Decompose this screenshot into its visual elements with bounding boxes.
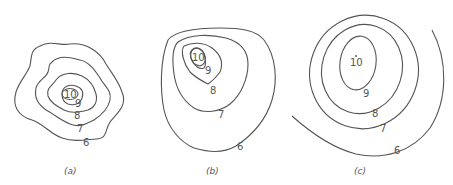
- label-7: 7: [77, 123, 83, 134]
- label-9: 9: [363, 88, 369, 99]
- caption-a: (a): [64, 166, 77, 176]
- label-8: 8: [372, 108, 378, 119]
- label-6: 6: [394, 145, 400, 156]
- caption-b: (b): [206, 166, 219, 176]
- label-10: 10: [192, 52, 205, 63]
- panel-c: 10 9 8 7 6 (c): [292, 0, 444, 176]
- panel-a: 10 9 8 7 6 (a): [15, 43, 124, 176]
- contour-figure: 10 9 8 7 6 (a) 10 9 8 7 6 (b) 10 9 8 7 6…: [0, 0, 453, 185]
- contour-diagram: 10 9 8 7 6 (a) 10 9 8 7 6 (b) 10 9 8 7 6…: [0, 0, 453, 185]
- contour-8: [310, 14, 414, 124]
- label-7: 7: [218, 109, 224, 120]
- label-8: 8: [74, 110, 80, 121]
- label-9: 9: [75, 98, 81, 109]
- label-8: 8: [210, 85, 216, 96]
- label-7: 7: [380, 123, 386, 134]
- caption-c: (c): [354, 166, 366, 176]
- label-6: 6: [83, 137, 89, 148]
- label-6: 6: [237, 141, 243, 152]
- label-10: 10: [350, 57, 363, 68]
- contour-7: [294, 0, 434, 144]
- label-9: 9: [205, 65, 211, 76]
- contour-8: [182, 43, 221, 84]
- panel-b: 10 9 8 7 6 (b): [161, 28, 275, 176]
